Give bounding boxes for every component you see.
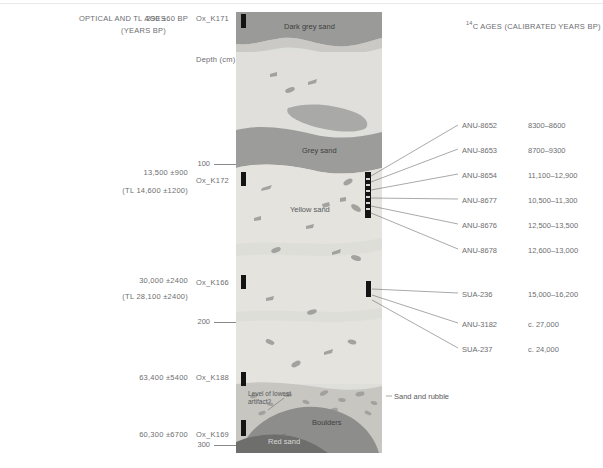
stratum-label-grey-sand: Grey sand bbox=[302, 146, 337, 155]
depth-tick-label-100: 100 bbox=[186, 159, 210, 168]
radiocarbon-code-4: ANU-8676 bbox=[462, 221, 497, 230]
radiocarbon-range-1: 8700–9300 bbox=[528, 146, 566, 155]
radiocarbon-range-8: c. 24,000 bbox=[528, 345, 559, 354]
depth-tick-label-300: 300 bbox=[186, 440, 210, 449]
optical-age-value-1: 13,500 ±900 bbox=[100, 168, 188, 177]
depth-tick-label-200: 200 bbox=[186, 317, 210, 326]
radiocarbon-code-3: ANU-8677 bbox=[462, 196, 497, 205]
sample-bar-K169 bbox=[241, 420, 246, 436]
optical-sample-code-3: Ox_K188 bbox=[196, 373, 229, 382]
radiocarbon-code-1: ANU-8653 bbox=[462, 146, 497, 155]
depth-tick-mark-100 bbox=[214, 164, 236, 165]
radiocarbon-range-0: 8300–8600 bbox=[528, 121, 566, 130]
optical-age-tl-2: (TL 28,100 ±2400) bbox=[88, 292, 188, 301]
optical-age-value-4: 60,300 ±6700 bbox=[100, 430, 188, 439]
radiocarbon-range-2: 11,100–12,900 bbox=[528, 171, 578, 180]
radiocarbon-range-6: 15,000–16,200 bbox=[528, 290, 578, 299]
optical-age-value-2: 30,000 ±2400 bbox=[100, 276, 188, 285]
header-radiocarbon-text: C AGES (CALIBRATED YEARS BP) bbox=[473, 22, 601, 31]
charcoal-sample-mid bbox=[366, 281, 371, 297]
radiocarbon-range-7: c. 27,000 bbox=[528, 320, 559, 329]
annotation-lowest-artifact: Level of lowest artifact? bbox=[248, 390, 310, 406]
depth-tick-mark-300 bbox=[214, 445, 236, 446]
stratum-label-red-sand: Red sand bbox=[268, 437, 300, 446]
header-radiocarbon-ages: 14C AGES (CALIBRATED YEARS BP) bbox=[466, 20, 601, 31]
depth-tick-mark-200 bbox=[214, 322, 236, 323]
sample-bar-K172 bbox=[241, 172, 246, 186]
radiocarbon-code-0: ANU-8652 bbox=[462, 121, 497, 130]
top-rule bbox=[0, 3, 603, 4]
sample-bar-K188 bbox=[241, 372, 246, 386]
radiocarbon-code-8: SUA-237 bbox=[462, 345, 492, 354]
charcoal-sample-stack-upper bbox=[365, 172, 371, 218]
optical-age-tl-1: (TL 14,600 ±1200) bbox=[88, 186, 188, 195]
optical-sample-code-4: Ox_K169 bbox=[196, 430, 229, 439]
depth-axis-label: Depth (cm) bbox=[196, 55, 236, 64]
radiocarbon-code-2: ANU-8654 bbox=[462, 171, 497, 180]
radiocarbon-range-5: 12,600–13,000 bbox=[528, 246, 578, 255]
stratigraphic-section bbox=[236, 12, 382, 453]
header-radiocarbon-superscript: 14 bbox=[466, 20, 473, 26]
radiocarbon-range-3: 10,500–11,300 bbox=[528, 196, 578, 205]
sample-bar-K166 bbox=[241, 275, 246, 289]
radiocarbon-code-6: SUA-236 bbox=[462, 290, 492, 299]
radiocarbon-code-7: ANU-3182 bbox=[462, 320, 497, 329]
radiocarbon-code-5: ANU-8678 bbox=[462, 246, 497, 255]
sample-bar-K171 bbox=[241, 14, 246, 28]
optical-sample-code-1: Ox_K172 bbox=[196, 176, 229, 185]
optical-age-value-3: 63,400 ±5400 bbox=[100, 373, 188, 382]
annotation-sand-and-rubble: Sand and rubble bbox=[394, 392, 449, 401]
optical-sample-code-2: Ox_K166 bbox=[196, 278, 229, 287]
stratum-label-boulders: Boulders bbox=[312, 418, 342, 427]
radiocarbon-range-4: 12,500–13,500 bbox=[528, 221, 578, 230]
stratum-label-dark-grey-sand: Dark grey sand bbox=[284, 22, 335, 31]
stratum-label-yellow-sand: Yellow sand bbox=[290, 205, 330, 214]
optical-age-value-0: 290 ±60 BP bbox=[100, 14, 188, 23]
header-optical-ages-line2: (YEARS BP) bbox=[16, 26, 166, 35]
optical-sample-code-0: Ox_K171 bbox=[196, 14, 229, 23]
